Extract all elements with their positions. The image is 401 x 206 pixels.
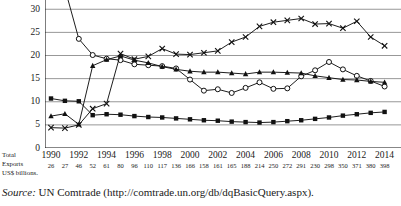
- export-value-label: 250: [266, 162, 280, 169]
- x-axis-year-label: 1994: [93, 150, 121, 160]
- export-value-label: 52: [86, 162, 100, 169]
- data-point-marker: [271, 86, 276, 91]
- data-point-marker: [382, 84, 387, 89]
- export-value-label: 398: [378, 162, 392, 169]
- export-value-label: 117: [155, 162, 169, 169]
- x-axis-year-label: 2006: [259, 150, 287, 160]
- data-point-marker: [188, 117, 192, 121]
- export-value-label: 166: [183, 162, 197, 169]
- x-axis-year-label: 2012: [343, 150, 371, 160]
- source-caption: Source: UN Comtrade (http://comtrade.un.…: [2, 186, 314, 198]
- data-point-marker: [257, 24, 262, 29]
- export-value-label: 371: [350, 162, 364, 169]
- export-value-label: 80: [114, 162, 128, 169]
- x-axis-year-label: 1998: [148, 150, 176, 160]
- data-point-marker: [118, 113, 122, 117]
- data-point-marker: [62, 111, 67, 116]
- data-point-marker: [368, 34, 373, 39]
- data-point-marker: [216, 119, 220, 123]
- data-point-marker: [271, 120, 275, 124]
- data-point-marker: [90, 53, 95, 58]
- export-value-label: 161: [211, 162, 225, 169]
- data-point-marker: [257, 80, 262, 85]
- plot-area: [45, 0, 401, 148]
- data-point-marker: [160, 115, 164, 119]
- secondary-axis-label-line-2: Exports: [2, 160, 23, 168]
- data-point-marker: [104, 112, 108, 116]
- export-value-label: 96: [127, 162, 141, 169]
- data-point-marker: [243, 34, 248, 39]
- export-value-label: 380: [364, 162, 378, 169]
- data-point-marker: [354, 19, 359, 24]
- data-point-marker: [382, 43, 387, 48]
- data-point-marker: [90, 106, 95, 111]
- y-axis-tick-label: 10: [18, 97, 40, 106]
- data-point-marker: [313, 117, 317, 121]
- x-axis-export-values: 2627465261809611011713616615816116518821…: [45, 162, 401, 173]
- x-axis-year-label: 2002: [204, 150, 232, 160]
- export-value-label: 230: [308, 162, 322, 169]
- x-axis-year-label: 1996: [120, 150, 148, 160]
- data-point-marker: [340, 67, 345, 72]
- data-point-marker: [327, 115, 331, 119]
- data-point-marker: [341, 113, 345, 117]
- x-axis-year-label: 2000: [176, 150, 204, 160]
- source-text: UN Comtrade (http://comtrade.un.org/db/d…: [36, 186, 314, 198]
- data-point-marker: [230, 119, 234, 123]
- data-point-marker: [63, 99, 67, 103]
- data-point-marker: [146, 115, 150, 119]
- data-point-marker: [174, 116, 178, 120]
- data-point-marker: [91, 113, 95, 117]
- data-point-marker: [132, 114, 136, 118]
- data-point-marker: [369, 111, 373, 115]
- x-axis-year-label: 2014: [371, 150, 399, 160]
- export-value-label: 165: [225, 162, 239, 169]
- export-value-label: 46: [72, 162, 86, 169]
- export-value-label: 350: [336, 162, 350, 169]
- y-axis-tick-label: 30: [18, 5, 40, 14]
- chart-figure: % Export Market 051015202530 Total Expor…: [0, 0, 401, 206]
- data-point-marker: [188, 77, 193, 82]
- export-value-label: 291: [294, 162, 308, 169]
- x-axis-year-label: 2004: [232, 150, 260, 160]
- data-point-marker: [327, 59, 332, 64]
- series-open-circle: [51, 0, 387, 95]
- export-value-label: 110: [141, 162, 155, 169]
- chart-svg: [45, 0, 401, 148]
- x-axis-year-label: 2010: [315, 150, 343, 160]
- data-point-marker: [243, 120, 247, 124]
- secondary-axis-label-line-3: US$ billions.: [2, 169, 38, 177]
- y-axis-tick-label: 5: [18, 120, 40, 129]
- series-filled-square: [49, 96, 387, 124]
- data-point-marker: [285, 119, 289, 123]
- export-value-label: 61: [100, 162, 114, 169]
- export-value-label: 272: [280, 162, 294, 169]
- data-point-marker: [243, 85, 248, 90]
- data-point-marker: [49, 96, 53, 100]
- data-point-marker: [215, 87, 220, 92]
- data-point-marker: [229, 90, 234, 95]
- secondary-axis-label-line-1: Total: [2, 151, 16, 159]
- data-point-marker: [313, 68, 318, 73]
- data-point-marker: [132, 62, 137, 67]
- export-value-label: 136: [169, 162, 183, 169]
- data-point-marker: [201, 88, 206, 93]
- export-value-label: 214: [253, 162, 267, 169]
- source-prefix: Source:: [2, 186, 36, 198]
- data-point-marker: [160, 46, 165, 51]
- data-point-marker: [340, 26, 345, 31]
- x-axis-year-label: 1990: [37, 150, 65, 160]
- data-point-marker: [202, 118, 206, 122]
- export-value-label: 188: [239, 162, 253, 169]
- y-axis-tick-label: 25: [18, 28, 40, 37]
- x-axis-year-labels: 1990199219941996199820002002200420062008…: [45, 150, 401, 162]
- y-axis-tick-label: 20: [18, 51, 40, 60]
- data-point-marker: [229, 39, 234, 44]
- data-point-marker: [77, 99, 81, 103]
- data-point-marker: [76, 36, 81, 41]
- x-axis-year-label: 1992: [65, 150, 93, 160]
- export-value-label: 298: [322, 162, 336, 169]
- data-point-marker: [285, 86, 290, 91]
- data-point-marker: [257, 120, 261, 124]
- data-point-marker: [299, 118, 303, 122]
